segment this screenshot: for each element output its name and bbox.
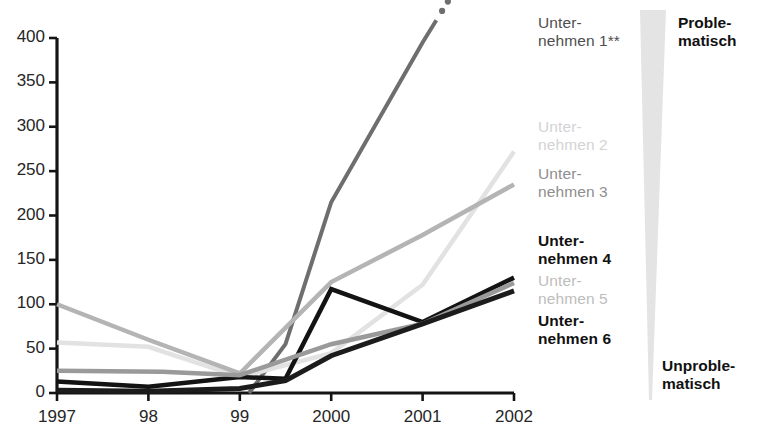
legend-label-line1: Unter- — [538, 165, 608, 183]
series-layer — [57, 0, 514, 393]
wedge-top-line1: Proble- — [678, 14, 737, 32]
legend-item-unternehmen-6: Unter- nehmen 6 — [538, 312, 611, 347]
y-tick-label: 50 — [0, 338, 45, 358]
legend-item-unternehmen-5: Unter- nehmen 5 — [538, 272, 608, 307]
y-tick-label: 250 — [0, 160, 45, 180]
series-projection-dot — [445, 0, 451, 5]
x-tick-label: 99 — [195, 407, 285, 427]
legend-label-line1: Unter- — [538, 118, 608, 136]
legend-label-line2: nehmen 5 — [538, 290, 608, 308]
series-projection-dot — [439, 8, 445, 14]
y-tick-label: 350 — [0, 71, 45, 91]
legend-item-unternehmen-3: Unter- nehmen 3 — [538, 165, 608, 200]
legend-item-unternehmen-4: Unter- nehmen 4 — [538, 232, 611, 267]
legend-label-line2: nehmen 3 — [538, 183, 608, 201]
legend-item-unternehmen-2: Unter- nehmen 2 — [538, 118, 608, 153]
y-tick-label: 100 — [0, 293, 45, 313]
legend-label-line2: nehmen 6 — [538, 330, 611, 348]
y-tick-label: 150 — [0, 249, 45, 269]
legend-label-line1: Unter- — [538, 312, 611, 330]
x-tick-label: 1997 — [12, 407, 102, 427]
wedge-top-line2: matisch — [678, 32, 737, 50]
wedge-bottom-line2: matisch — [662, 375, 735, 393]
severity-wedge — [640, 10, 666, 400]
legend-label-line1: Unter- — [538, 232, 611, 250]
x-tick-label: 2001 — [378, 407, 468, 427]
legend-label-line1: Unter- — [538, 272, 608, 290]
x-tick-label: 98 — [103, 407, 193, 427]
legend-item-unternehmen-1: Unter- nehmen 1** — [538, 14, 620, 49]
y-tick-label: 200 — [0, 205, 45, 225]
y-tick-label: 300 — [0, 116, 45, 136]
y-tick-label: 400 — [0, 27, 45, 47]
wedge-bottom-line1: Unproble- — [662, 357, 735, 375]
x-tick-label: 2000 — [286, 407, 376, 427]
line-chart-canvas — [0, 0, 769, 443]
x-tick-label: 2002 — [469, 407, 559, 427]
y-tick-label: 0 — [0, 382, 45, 402]
legend-label-line2: nehmen 1** — [538, 32, 620, 50]
legend-label-line2: nehmen 2 — [538, 136, 608, 154]
wedge-label-problematisch: Proble- matisch — [678, 14, 737, 49]
legend-label-line2: nehmen 4 — [538, 250, 611, 268]
legend-label-line1: Unter- — [538, 14, 620, 32]
wedge-label-unproblematisch: Unproble- matisch — [662, 357, 735, 392]
chart-figure: 050100150200250300350400 199798992000200… — [0, 0, 769, 443]
